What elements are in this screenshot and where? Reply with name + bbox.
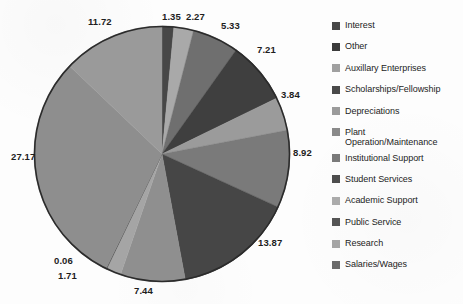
- legend-swatch-icon: [332, 64, 340, 72]
- chart-legend: InterestOtherAuxillary EnterprisesSchola…: [332, 20, 462, 281]
- legend-item[interactable]: Academic Support: [332, 195, 462, 205]
- pie-data-label-public-service: 0.06: [54, 256, 73, 266]
- legend-swatch-icon: [332, 107, 340, 115]
- legend-swatch-icon: [332, 128, 340, 136]
- legend-swatch-icon: [332, 22, 340, 30]
- pie-data-label-research: 27.17: [11, 152, 35, 162]
- pie-svg: [26, 18, 298, 290]
- legend-swatch-icon: [332, 197, 340, 205]
- legend-item-label: Other: [345, 41, 367, 51]
- legend-item-label: Auxillary Enterprises: [345, 63, 426, 73]
- legend-item[interactable]: Scholarships/Fellowship: [332, 84, 462, 94]
- pie-data-label-other: 2.27: [186, 12, 205, 22]
- legend-swatch-icon: [332, 86, 340, 94]
- legend-item-label: Institutional Support: [345, 153, 424, 163]
- pie-data-label-depreciations: 3.84: [281, 90, 300, 100]
- pie-data-label-auxillary-enterprises: 5.33: [221, 21, 240, 31]
- legend-item-label: Scholarships/Fellowship: [345, 84, 440, 94]
- legend-item-label: Plant Operation/Maintenance: [345, 127, 438, 147]
- pie-data-label-academic-support: 1.71: [58, 271, 77, 281]
- pie-data-label-institutional-support: 13.87: [258, 238, 282, 248]
- legend-swatch-icon: [332, 154, 340, 162]
- pie-data-label-scholarships-fellowship: 7.21: [257, 45, 276, 55]
- legend-item[interactable]: Other: [332, 41, 462, 51]
- legend-swatch-icon: [332, 175, 340, 183]
- pie-data-label-salaries-wages: 11.72: [88, 17, 112, 27]
- pie-chart-figure: 1.35 2.27 5.33 7.21 3.84 8.92 13.87 7.44…: [0, 0, 463, 304]
- pie-data-label-interest: 1.35: [162, 12, 181, 22]
- legend-item[interactable]: Institutional Support: [332, 153, 462, 163]
- legend-item[interactable]: Student Services: [332, 174, 462, 184]
- legend-item-label: Student Services: [345, 174, 412, 184]
- legend-swatch-icon: [332, 261, 340, 269]
- pie-data-label-student-services: 7.44: [134, 286, 153, 296]
- legend-swatch-icon: [332, 240, 340, 248]
- pie-data-label-plant-operation: 8.92: [293, 148, 312, 158]
- legend-swatch-icon: [332, 43, 340, 51]
- legend-item[interactable]: Public Service: [332, 217, 462, 227]
- legend-item-label: Public Service: [345, 217, 401, 227]
- legend-item-label: Interest: [345, 20, 375, 30]
- pie-plot-area: [26, 18, 298, 290]
- legend-item-label: Research: [345, 238, 383, 248]
- legend-item[interactable]: Auxillary Enterprises: [332, 63, 462, 73]
- legend-item[interactable]: Interest: [332, 20, 462, 30]
- legend-item[interactable]: Depreciations: [332, 106, 462, 116]
- legend-swatch-icon: [332, 218, 340, 226]
- legend-item[interactable]: Plant Operation/Maintenance: [332, 127, 462, 147]
- legend-item-label: Salaries/Wages: [345, 259, 407, 269]
- legend-item[interactable]: Research: [332, 238, 462, 248]
- legend-item-label: Depreciations: [345, 106, 399, 116]
- legend-item-label: Academic Support: [345, 195, 418, 205]
- legend-item[interactable]: Salaries/Wages: [332, 259, 462, 269]
